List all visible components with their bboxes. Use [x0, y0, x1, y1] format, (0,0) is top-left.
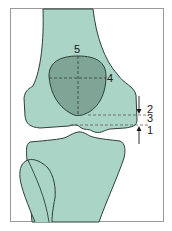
label-3: 3 — [147, 112, 153, 124]
label-1: 1 — [147, 124, 153, 136]
label-4: 4 — [107, 72, 113, 84]
knee-diagram: 5 4 2 3 1 — [0, 0, 172, 231]
label-5: 5 — [74, 43, 80, 55]
